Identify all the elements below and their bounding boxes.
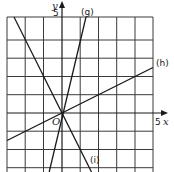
line-h-label: (h) (156, 58, 169, 68)
line-g-label: (g) (81, 7, 94, 17)
y-axis (59, 1, 65, 172)
origin-label: O (52, 116, 60, 127)
y-axis-arrow-icon (59, 1, 65, 8)
x-tick-label: 5 (155, 117, 161, 127)
x-axis-label: x (163, 116, 169, 127)
coordinate-graph: y 5 (g) (h) (i) 5 x O (0, 0, 174, 172)
line-i-label: (i) (90, 155, 100, 165)
y-tick-label: 5 (53, 8, 59, 18)
x-axis (7, 110, 168, 116)
